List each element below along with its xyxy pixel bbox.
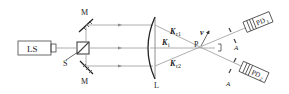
label-kr1: K r1 bbox=[169, 27, 181, 37]
label-kr2: K r2 bbox=[169, 59, 181, 69]
svg-text:A: A bbox=[233, 44, 239, 52]
arrow-bottom bbox=[118, 65, 122, 68]
mirror-bottom-label: M bbox=[81, 77, 88, 86]
photodetector-2: PD 2 bbox=[239, 61, 269, 83]
svg-text:K: K bbox=[169, 27, 176, 36]
svg-text:r1: r1 bbox=[176, 31, 181, 37]
point-p-label: P bbox=[194, 40, 199, 49]
svg-text:i: i bbox=[168, 42, 170, 48]
beam-splitter-label: S bbox=[63, 59, 67, 68]
svg-text:2: 2 bbox=[259, 76, 264, 82]
svg-text:r2: r2 bbox=[176, 63, 181, 69]
svg-text:PD: PD bbox=[255, 17, 266, 28]
mirror-top-label: M bbox=[81, 8, 88, 17]
label-ki: K i bbox=[161, 38, 170, 48]
velocity-label: v bbox=[200, 28, 204, 37]
lens-label: L bbox=[154, 81, 159, 90]
optical-diagram: LS S M M L bbox=[0, 0, 289, 94]
arrow-mid bbox=[118, 47, 122, 50]
mirror-bottom: M bbox=[80, 61, 93, 86]
laser-source: LS bbox=[18, 41, 56, 55]
arrow-top bbox=[118, 24, 122, 27]
lens: L bbox=[148, 17, 159, 90]
beam-stop bbox=[218, 44, 221, 51]
svg-text:1: 1 bbox=[266, 19, 271, 25]
beam-splitter: S bbox=[63, 42, 89, 68]
svg-text:A: A bbox=[225, 80, 231, 88]
svg-text:K: K bbox=[161, 38, 168, 47]
laser-source-label: LS bbox=[27, 44, 38, 54]
photodetector-1: PD 1 bbox=[243, 12, 273, 33]
svg-text:K: K bbox=[169, 59, 176, 68]
